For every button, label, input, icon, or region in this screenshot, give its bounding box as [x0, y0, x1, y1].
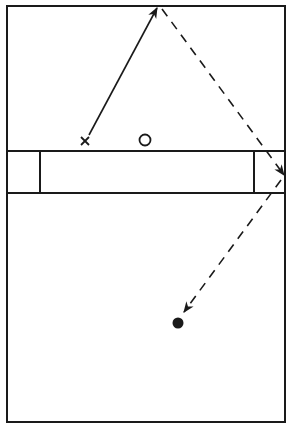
target-dot-icon: [173, 318, 184, 329]
run-path-arrow: [89, 8, 157, 135]
rebound-path-arrow: [184, 180, 281, 312]
court-diagram: [0, 0, 293, 429]
defender-o-icon: [140, 135, 151, 146]
attacker-x-icon: [81, 137, 89, 145]
court-outline: [7, 6, 285, 422]
